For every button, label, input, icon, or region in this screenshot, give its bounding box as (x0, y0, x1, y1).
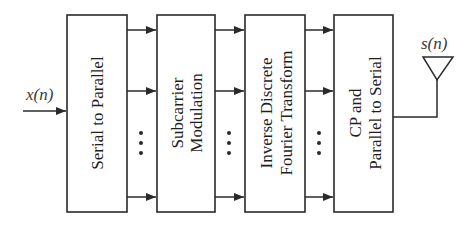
block-cp-label-1: CP and (346, 88, 365, 137)
input-signal-label: x(n) (25, 85, 54, 104)
block-idft-label-1: Inverse Discrete (257, 58, 276, 169)
output-wire (393, 79, 437, 117)
ellipsis-vertical (317, 131, 321, 155)
ellipsis-vertical (227, 131, 231, 155)
block-cp-label-2: Parallel to Serial (366, 56, 385, 170)
output-signal-label: s(n) (421, 34, 448, 53)
ofdm-diagram: x(n) Serial to Parallel Subcarrier Modul… (0, 0, 466, 230)
block-serial-to-parallel-label: Serial to Parallel (88, 56, 107, 170)
block-idft-label-2: Fourier Transform (277, 50, 296, 175)
ellipsis-vertical (139, 131, 143, 155)
block-subcarrier-modulation-label-2: Modulation (187, 73, 206, 153)
block-subcarrier-modulation-label-1: Subcarrier (168, 77, 187, 148)
antenna-icon (423, 57, 453, 80)
